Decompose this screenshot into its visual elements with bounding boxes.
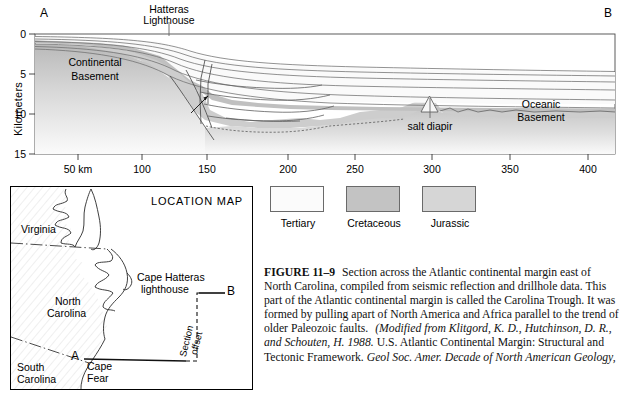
map-label-north-carolina-2: Carolina bbox=[47, 307, 86, 319]
map-label-cape-hatteras-1: Cape Hatteras bbox=[137, 271, 205, 283]
legend-swatch-tertiary bbox=[270, 186, 324, 212]
x-tick-300: 300 bbox=[412, 163, 452, 175]
legend-item-cretaceous: Cretaceous bbox=[346, 186, 402, 229]
hatteras-lighthouse-label-line2: Lighthouse bbox=[124, 14, 214, 26]
legend-item-jurassic: Jurassic bbox=[422, 186, 478, 229]
map-endpoint-b: B bbox=[227, 285, 235, 297]
delmarva-peninsula bbox=[91, 189, 101, 250]
x-tick-200: 200 bbox=[268, 163, 308, 175]
location-map-title: LOCATION MAP bbox=[151, 195, 243, 207]
section-endpoint-b: B bbox=[604, 6, 612, 20]
salt-diapir-label: salt diapir bbox=[400, 120, 460, 132]
cross-section-panel: 0 5 10 15 Kilometers 50 km 100 150 200 2… bbox=[0, 0, 624, 178]
map-label-virginia: Virginia bbox=[21, 223, 56, 235]
x-tick-250: 250 bbox=[335, 163, 375, 175]
x-tick-150: 150 bbox=[187, 163, 227, 175]
oceanic-basement-label-line2: Basement bbox=[506, 111, 576, 123]
oceanic-basement-label-line1: Oceanic bbox=[506, 98, 576, 110]
legend-item-tertiary: Tertiary bbox=[270, 186, 326, 229]
section-endpoint-a: A bbox=[40, 6, 48, 20]
legend-label-jurassic: Jurassic bbox=[422, 217, 478, 229]
legend-swatch-jurassic bbox=[422, 186, 476, 212]
map-label-south-carolina-2: Carolina bbox=[17, 373, 56, 385]
map-endpoint-a: A bbox=[71, 350, 79, 362]
location-map: LOCATION MAP Virginia North Carolina Sou… bbox=[10, 186, 253, 390]
x-tick-350: 350 bbox=[490, 163, 530, 175]
cross-section-chart bbox=[0, 0, 624, 178]
figure-caption: FIGURE 11–9Section across the Atlantic c… bbox=[264, 266, 620, 365]
continental-basement-label-line2: Basement bbox=[50, 70, 140, 82]
figure-source-3: Geol Soc. Amer. Decade of North American… bbox=[367, 351, 616, 364]
y-tick-15: 15 bbox=[6, 148, 26, 160]
x-tick-50: 50 km bbox=[48, 163, 108, 175]
location-map-graphic bbox=[11, 187, 252, 389]
x-tick-100: 100 bbox=[122, 163, 162, 175]
y-tick-0: 0 bbox=[12, 28, 26, 40]
map-label-cape-fear-1: Cape bbox=[87, 360, 112, 372]
x-tick-400: 400 bbox=[568, 163, 608, 175]
x-axis bbox=[78, 154, 588, 160]
legend-swatch-cretaceous bbox=[346, 186, 400, 212]
figure-number: FIGURE 11–9 bbox=[264, 266, 335, 279]
map-label-north-carolina-1: North bbox=[55, 295, 81, 307]
map-label-cape-hatteras-2: lighthouse bbox=[141, 283, 189, 295]
y-axis bbox=[29, 34, 35, 154]
legend-label-cretaceous: Cretaceous bbox=[346, 217, 402, 229]
continental-basement-label-line1: Continental bbox=[50, 56, 140, 68]
map-label-south-carolina-1: South bbox=[17, 361, 44, 373]
y-axis-title: Kilometers bbox=[12, 82, 24, 136]
legend-label-tertiary: Tertiary bbox=[270, 217, 326, 229]
map-label-cape-fear-2: Fear bbox=[87, 372, 109, 384]
outer-banks-barrier bbox=[104, 249, 128, 339]
stratigraphy-legend: Tertiary Cretaceous Jurassic bbox=[270, 186, 480, 248]
y-tick-5: 5 bbox=[12, 68, 26, 80]
